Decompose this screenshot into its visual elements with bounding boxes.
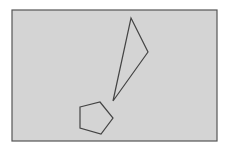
gray-panel [12, 10, 217, 141]
diagram-canvas [0, 0, 229, 152]
